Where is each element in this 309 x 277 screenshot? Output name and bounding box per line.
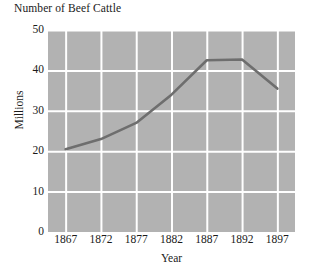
y-tick-label: 50 — [18, 24, 44, 36]
y-axis-label: Millions — [13, 80, 25, 140]
x-tick-label: 1892 — [222, 234, 262, 246]
x-axis-tick-labels: 1867187218771882188718921897 — [48, 234, 295, 250]
beef-cattle-line-chart: Number of Beef Cattle 01020304050 Millio… — [0, 0, 309, 277]
y-tick-label: 10 — [18, 186, 44, 198]
x-tick-label: 1877 — [116, 234, 156, 246]
y-tick-label: 40 — [18, 64, 44, 76]
x-tick-label: 1882 — [152, 234, 192, 246]
plot-area — [48, 30, 295, 232]
x-axis-label: Year — [48, 252, 295, 264]
x-tick-label: 1872 — [81, 234, 121, 246]
chart-title: Number of Beef Cattle — [14, 2, 121, 14]
x-tick-label: 1867 — [46, 234, 86, 246]
y-tick-label: 20 — [18, 145, 44, 157]
y-tick-label: 0 — [18, 226, 44, 238]
x-tick-label: 1897 — [257, 234, 297, 246]
x-tick-label: 1887 — [187, 234, 227, 246]
plot-svg — [48, 30, 295, 232]
